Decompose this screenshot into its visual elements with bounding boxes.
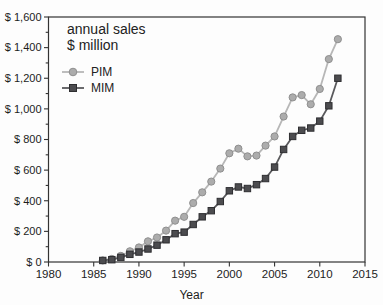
data-point-pim: [199, 189, 206, 196]
data-point-pim: [307, 101, 314, 108]
data-point-pim: [325, 56, 332, 63]
data-point-mim: [335, 75, 341, 81]
x-tick-label: 2005: [262, 268, 288, 280]
data-point-pim: [162, 227, 169, 234]
data-point-pim: [208, 178, 215, 185]
data-point-mim: [280, 146, 286, 152]
y-tick-label: $ 1,600: [5, 11, 42, 23]
data-point-pim: [144, 238, 151, 245]
data-point-mim: [109, 257, 115, 263]
data-point-mim: [271, 164, 277, 170]
x-tick-label: 1995: [171, 268, 197, 280]
data-point-mim: [127, 251, 133, 257]
data-point-pim: [153, 234, 160, 241]
data-point-pim: [271, 133, 278, 140]
data-point-mim: [308, 125, 314, 131]
data-point-pim: [280, 113, 287, 120]
mim-square-marker-icon: [61, 82, 85, 94]
data-point-pim: [244, 153, 251, 160]
y-tick-label: $ 400: [14, 195, 42, 207]
x-tick-label: 1990: [126, 268, 152, 280]
x-tick-label: 1985: [81, 268, 107, 280]
data-point-pim: [181, 213, 188, 220]
x-tick-label: 2000: [217, 268, 243, 280]
series-line-pim: [103, 39, 338, 260]
data-point-pim: [298, 91, 305, 98]
data-point-pim: [235, 145, 242, 152]
data-point-mim: [163, 237, 169, 243]
data-point-mim: [289, 133, 295, 139]
data-point-pim: [226, 150, 233, 157]
legend-item-mim: MIM: [61, 80, 114, 95]
data-point-mim: [100, 257, 106, 263]
data-point-mim: [235, 184, 241, 190]
data-point-mim: [181, 229, 187, 235]
y-tick-label: $ 1,400: [5, 41, 42, 53]
data-point-pim: [172, 217, 179, 224]
data-point-pim: [289, 94, 296, 101]
y-tick-label: $ 600: [14, 164, 42, 176]
data-point-mim: [145, 246, 151, 252]
x-tick-label: 2015: [352, 268, 378, 280]
chart-figure: $ 0$ 200$ 400$ 600$ 800$ 1,000$ 1,200$ 1…: [0, 0, 383, 305]
legend-label-pim: PIM: [91, 65, 112, 79]
plot-frame: [49, 17, 366, 262]
pim-circle-marker-icon: [61, 66, 85, 78]
data-point-pim: [316, 85, 323, 92]
data-point-mim: [199, 214, 205, 220]
x-tick-label: 2010: [307, 268, 333, 280]
data-point-mim: [317, 118, 323, 124]
data-point-pim: [217, 165, 224, 172]
legend-item-pim: PIM: [61, 64, 114, 79]
data-point-pim: [190, 199, 197, 206]
data-point-pim: [334, 36, 341, 43]
data-point-mim: [253, 181, 259, 187]
data-point-mim: [299, 127, 305, 133]
data-point-mim: [208, 208, 214, 214]
data-point-mim: [136, 249, 142, 255]
chart-title-line1: annual sales: [67, 21, 146, 37]
chart-title-line2: $ million: [67, 37, 146, 53]
y-tick-label: $ 200: [14, 225, 42, 237]
y-tick-label: $ 0: [26, 256, 41, 268]
data-point-mim: [118, 254, 124, 260]
y-tick-label: $ 800: [14, 133, 42, 145]
legend: PIM MIM: [61, 64, 114, 96]
y-tick-label: $ 1,200: [5, 72, 42, 84]
data-point-mim: [172, 230, 178, 236]
data-point-mim: [226, 188, 232, 194]
chart-title: annual sales $ million: [67, 21, 146, 53]
x-axis-title: Year: [0, 288, 383, 302]
data-point-mim: [244, 185, 250, 191]
legend-label-mim: MIM: [91, 81, 114, 95]
data-point-pim: [262, 142, 269, 149]
data-point-mim: [217, 198, 223, 204]
data-point-mim: [190, 221, 196, 227]
data-point-mim: [262, 175, 268, 181]
x-tick-label: 1980: [36, 268, 62, 280]
line-chart-canvas: $ 0$ 200$ 400$ 600$ 800$ 1,000$ 1,200$ 1…: [0, 0, 383, 305]
data-point-pim: [253, 152, 260, 159]
data-point-mim: [154, 242, 160, 248]
y-tick-label: $ 1,000: [5, 103, 42, 115]
data-point-mim: [326, 103, 332, 109]
